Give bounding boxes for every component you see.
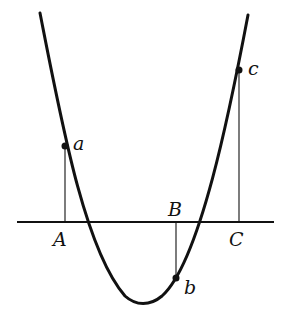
label-a: a xyxy=(73,132,84,154)
point-b xyxy=(173,275,180,282)
parabola-diagram: a b c A B C xyxy=(0,0,289,316)
label-b: b xyxy=(184,276,196,298)
label-C: C xyxy=(229,228,244,250)
label-A: A xyxy=(51,228,67,250)
point-a xyxy=(62,143,69,150)
label-c: c xyxy=(248,57,259,79)
label-B: B xyxy=(167,198,182,220)
point-c xyxy=(236,67,243,74)
parabola-curve xyxy=(40,13,248,304)
